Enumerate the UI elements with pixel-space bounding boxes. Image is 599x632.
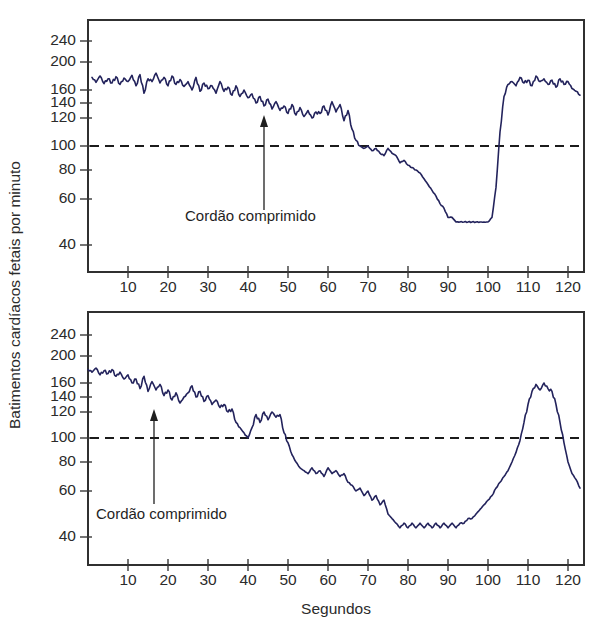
bottom-xlabel-10: 10 xyxy=(119,571,137,588)
bottom-ylabel-40: 40 xyxy=(59,527,77,544)
bottom-heart-rate-trace xyxy=(88,368,580,528)
bottom-xlabel-90: 90 xyxy=(439,571,457,588)
top-xlabel-50: 50 xyxy=(279,278,297,295)
top-ylabel-40: 40 xyxy=(59,235,77,252)
bottom-xlabel-70: 70 xyxy=(359,571,377,588)
bottom-panel: 240 200 160 140 120 100 80 60 40 1020304… xyxy=(50,312,584,588)
top-xlabel-70: 70 xyxy=(359,278,377,295)
bottom-xlabel-40: 40 xyxy=(239,571,257,588)
fetal-heart-rate-figure: Batimentos cardíacos fetais por minuto 2… xyxy=(0,0,599,632)
top-xlabel-110: 110 xyxy=(516,278,541,295)
top-ylabel-80: 80 xyxy=(59,160,77,177)
top-xlabel-80: 80 xyxy=(399,278,417,295)
top-xlabel-90: 90 xyxy=(439,278,457,295)
top-ylabel-200: 200 xyxy=(50,52,76,69)
bottom-xlabel-60: 60 xyxy=(319,571,337,588)
bottom-xlabel-30: 30 xyxy=(199,571,217,588)
x-axis-title: Segundos xyxy=(301,600,371,617)
top-panel: 240 200 160 140 120 100 80 60 40 1020304… xyxy=(50,20,584,295)
top-xlabel-120: 120 xyxy=(555,278,581,295)
top-annotation: Cordão comprimido xyxy=(185,115,316,224)
bottom-ylabel-100: 100 xyxy=(50,428,76,445)
top-xlabel-20: 20 xyxy=(159,278,177,295)
y-axis-title-group: Batimentos cardíacos fetais por minuto xyxy=(6,161,23,429)
bottom-ylabel-60: 60 xyxy=(59,481,77,498)
top-x-tick-labels: 102030405060708090100110120 xyxy=(119,278,581,295)
bottom-x-tick-labels: 102030405060708090100110120 xyxy=(119,571,581,588)
bottom-annotation-label: Cordão comprimido xyxy=(96,505,227,522)
top-y-tick-labels: 240 200 160 140 120 100 80 60 40 xyxy=(50,31,76,252)
top-xlabel-40: 40 xyxy=(239,278,257,295)
top-annotation-label: Cordão comprimido xyxy=(185,207,316,224)
bottom-xlabel-110: 110 xyxy=(516,571,541,588)
top-xlabel-60: 60 xyxy=(319,278,337,295)
top-annotation-arrowhead xyxy=(260,115,268,127)
bottom-xlabel-20: 20 xyxy=(159,571,177,588)
bottom-xlabel-100: 100 xyxy=(475,571,501,588)
top-heart-rate-trace xyxy=(92,73,580,222)
bottom-xlabel-80: 80 xyxy=(399,571,417,588)
bottom-ylabel-120: 120 xyxy=(50,402,76,419)
top-ylabel-100: 100 xyxy=(50,136,76,153)
bottom-xlabel-120: 120 xyxy=(555,571,581,588)
top-ylabel-240: 240 xyxy=(50,31,76,48)
bottom-y-tick-labels: 240 200 160 140 120 100 80 60 40 xyxy=(50,325,76,544)
figure-svg: Batimentos cardíacos fetais por minuto 2… xyxy=(0,0,599,632)
top-xlabel-30: 30 xyxy=(199,278,217,295)
bottom-ylabel-200: 200 xyxy=(50,346,76,363)
y-axis-title: Batimentos cardíacos fetais por minuto xyxy=(6,161,23,429)
bottom-ylabel-80: 80 xyxy=(59,452,77,469)
top-ylabel-120: 120 xyxy=(50,108,76,125)
bottom-annotation: Cordão comprimido xyxy=(96,409,227,522)
top-ylabel-60: 60 xyxy=(59,189,77,206)
bottom-ylabel-240: 240 xyxy=(50,325,76,342)
bottom-xlabel-50: 50 xyxy=(279,571,297,588)
top-xlabel-100: 100 xyxy=(475,278,501,295)
bottom-annotation-arrowhead xyxy=(150,409,158,421)
top-xlabel-10: 10 xyxy=(119,278,137,295)
